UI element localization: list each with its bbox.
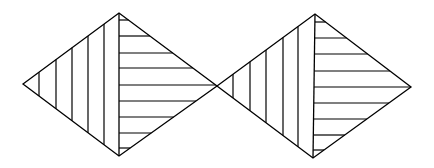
right-diamond-center-divider	[313, 14, 315, 158]
right-diamond-horizontal-hatching	[313, 22, 411, 150]
left-diamond	[23, 13, 217, 156]
left-diamond-horizontal-hatching	[119, 20, 216, 148]
right-diamond-vertical-hatching	[233, 26, 298, 146]
right-diamond	[217, 14, 411, 158]
diagram-canvas	[0, 0, 434, 168]
left-diamond-vertical-hatching	[39, 24, 104, 145]
